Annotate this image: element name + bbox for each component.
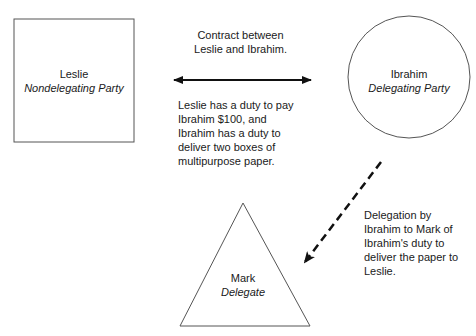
leslie-label: Leslie Nondelegating Party (14, 67, 134, 95)
mark-triangle-node (180, 203, 310, 326)
ibrahim-label: Ibrahim Delegating Party (349, 67, 469, 95)
ibrahim-name: Ibrahim (349, 67, 469, 81)
contract-description: Leslie has a duty to pay Ibrahim $100, a… (178, 98, 302, 168)
contract-title: Contract between Leslie and Ibrahim. (183, 28, 298, 56)
mark-label: Mark Delegate (193, 271, 293, 299)
mark-name: Mark (193, 271, 293, 285)
ibrahim-role: Delegating Party (349, 81, 469, 95)
mark-role: Delegate (193, 285, 293, 299)
leslie-name: Leslie (14, 67, 134, 81)
leslie-role: Nondelegating Party (14, 81, 134, 95)
delegation-description: Delegation by Ibrahim to Mark of Ibrahim… (364, 208, 459, 278)
